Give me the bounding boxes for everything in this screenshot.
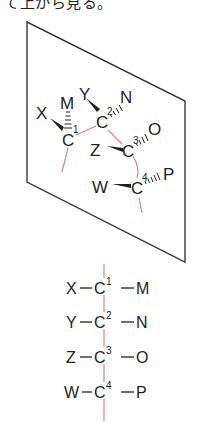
fischer-right: M (136, 280, 149, 297)
atom-z: Z (90, 141, 100, 160)
fischer-right: N (136, 314, 148, 331)
fischer-carbon: C (94, 349, 106, 366)
perspective-labels: X M Y N Z O W P C 1 C 2 C 3 C 4 (36, 85, 174, 198)
atom-p: P (163, 165, 174, 184)
fischer-carbon-number: 3 (106, 345, 112, 356)
atom-n: N (120, 88, 132, 107)
stereochemistry-diagram: X M Y N Z O W P C 1 C 2 C 3 C 4 X (0, 0, 204, 423)
fischer-right: P (136, 384, 147, 401)
projection-plane (27, 22, 185, 262)
atom-y: Y (79, 85, 90, 104)
fischer-left: Y (66, 314, 77, 331)
carbon-1-number: 1 (73, 124, 79, 135)
fischer-carbon-number: 1 (106, 276, 112, 287)
fischer-carbon: C (94, 384, 106, 401)
fischer-carbon: C (94, 280, 106, 297)
atom-w: W (92, 178, 108, 197)
fischer-left: Z (66, 349, 76, 366)
atom-m: M (60, 94, 74, 113)
carbon-3-number: 3 (133, 135, 139, 146)
atom-o: O (148, 120, 161, 139)
fischer-row-3: Z C 3 O (66, 345, 148, 366)
fischer-left: W (64, 384, 80, 401)
fischer-carbon: C (94, 314, 106, 331)
fischer-row-4: W C 4 P (64, 380, 147, 401)
atom-x: X (36, 104, 47, 123)
fischer-row-1: X C 1 M (66, 276, 149, 297)
fischer-horizontal-bonds (80, 288, 134, 392)
fischer-right: O (136, 349, 148, 366)
carbon-2-number: 2 (107, 106, 113, 117)
fischer-left: X (66, 280, 77, 297)
carbon-4-number: 4 (142, 172, 148, 183)
fischer-carbon-number: 2 (106, 310, 112, 321)
fischer-carbon-number: 4 (106, 380, 112, 391)
fischer-projection: X C 1 M Y C 2 N Z C 3 O W C 4 P (64, 264, 149, 421)
fischer-row-2: Y C 2 N (66, 310, 148, 331)
